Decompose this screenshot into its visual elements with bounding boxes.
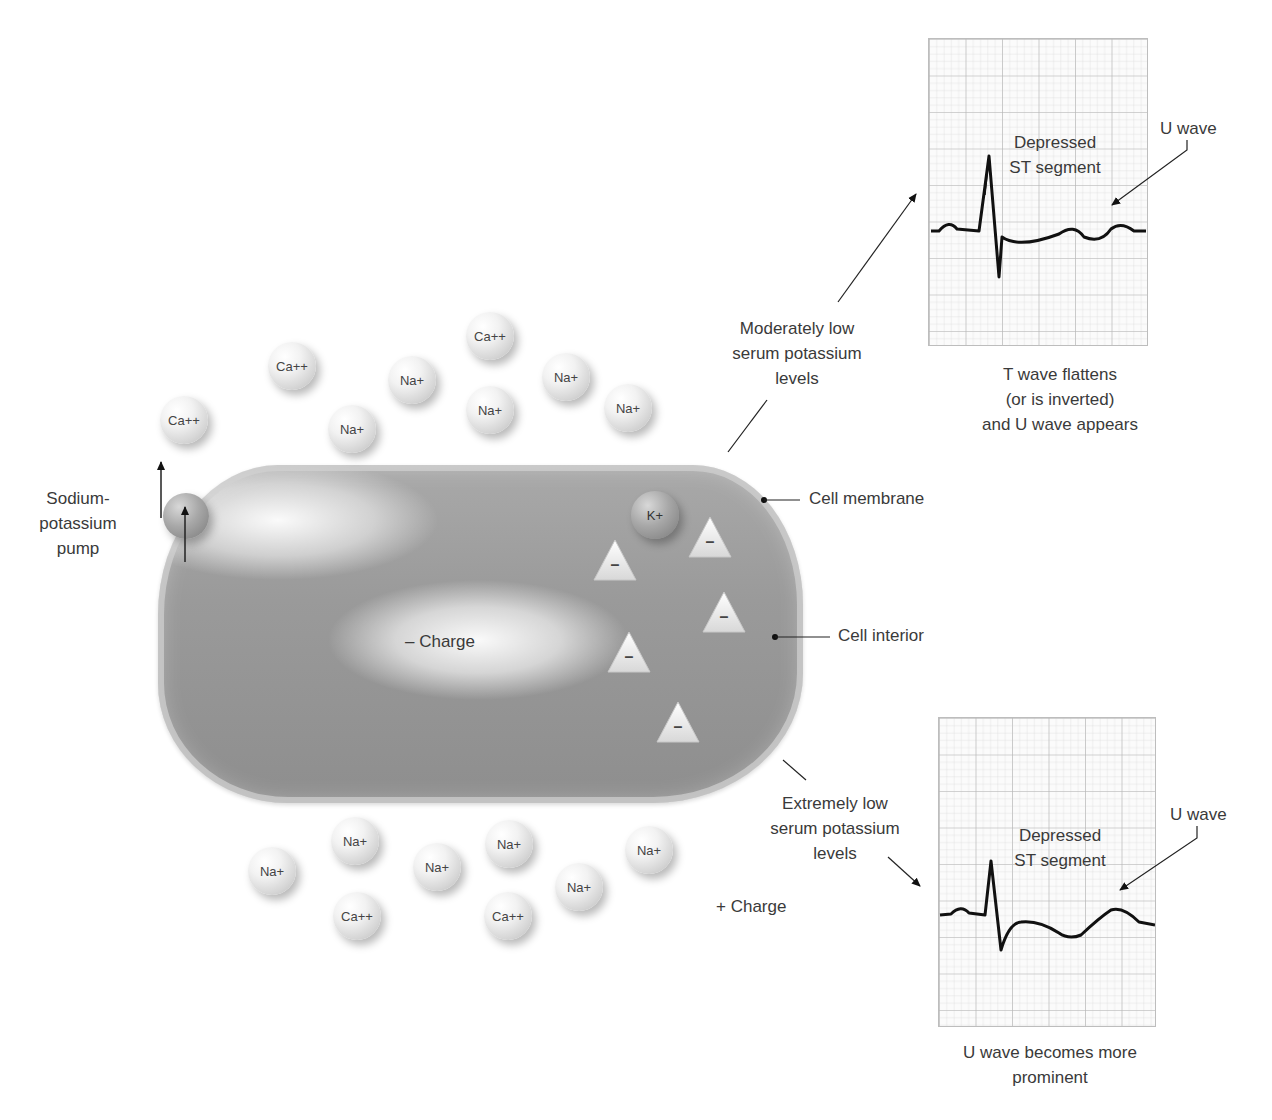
leader-lines — [0, 0, 1272, 1120]
u-wave-pointer-bottom — [1120, 826, 1197, 890]
u-wave-pointer-top — [1112, 140, 1187, 205]
arrow-to-ecg-bottom — [888, 857, 920, 886]
arrow-to-ecg-top — [838, 194, 916, 302]
